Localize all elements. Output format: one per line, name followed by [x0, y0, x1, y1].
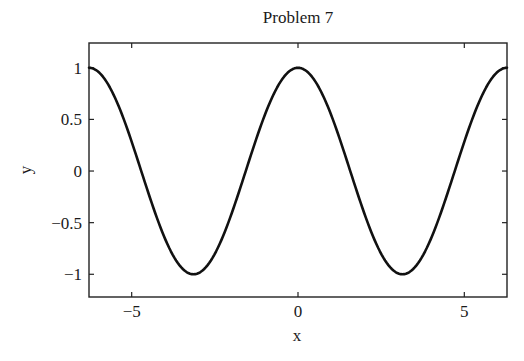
chart-title: Problem 7 [263, 8, 334, 27]
y-tick-label: 0 [74, 162, 83, 181]
x-tick-label: 5 [460, 302, 469, 321]
y-tick-label: −0.5 [51, 214, 82, 233]
x-tick-label: −5 [123, 302, 141, 321]
y-tick-label: 1 [74, 59, 83, 78]
y-axis-ticks: 10.50−0.5−1 [51, 59, 507, 285]
y-tick-label: −1 [64, 265, 82, 284]
data-line-cosine [89, 68, 507, 275]
plot-area: −505 10.50−0.5−1 [51, 43, 507, 321]
x-axis-label: x [293, 326, 302, 345]
chart: Problem 7 −505 10.50−0.5−1 x y [0, 0, 524, 361]
plot-frame [89, 43, 507, 297]
x-axis-ticks: −505 [123, 43, 469, 321]
y-tick-label: 0.5 [61, 110, 82, 129]
y-axis-label: y [16, 165, 35, 174]
x-tick-label: 0 [294, 302, 303, 321]
